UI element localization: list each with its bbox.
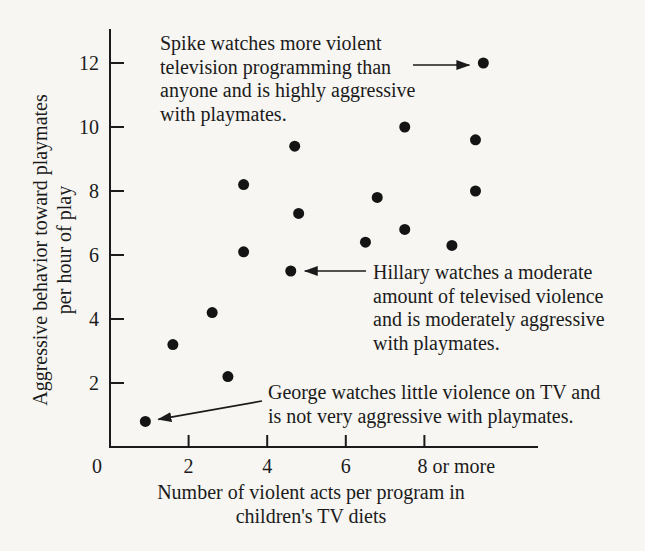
annotation-line: with playmates. [373,332,605,356]
annotation-line: is not very aggressive with playmates. [268,405,600,429]
annotation-line: George watches little violence on TV and [268,381,600,405]
data-point [289,141,300,152]
x-tick-label: 8 or more [417,455,495,477]
data-point [293,208,304,219]
data-point [372,192,383,203]
annotation-line: television programming than [160,56,416,80]
annotation-line: anyone and is highly aggressive [160,79,416,103]
data-point [470,186,481,197]
y-tick-label: 6 [89,244,99,266]
annotation-line: with playmates. [160,103,416,127]
arrow-to-george [158,401,262,419]
data-point [207,307,218,318]
annotation-line: Hillary watches a moderate [373,261,605,285]
y-axis-title-line: per hour of play [52,50,76,450]
x-axis-title: Number of violent acts per program in ch… [101,481,521,528]
data-point-hillary [285,266,296,277]
scatter-plot-figure: 2468101202468 or more Aggressive behavio… [0,0,645,551]
y-axis-title-line: Aggressive behavior toward playmates [28,50,52,450]
annotation-hillary: Hillary watches a moderate amount of tel… [373,261,605,355]
y-axis-title: Aggressive behavior toward playmates per… [28,50,76,450]
annotation-line: amount of televised violence [373,285,605,309]
y-tick-label: 2 [89,372,99,394]
data-point [167,339,178,350]
x-axis-title-line: children's TV diets [101,505,521,529]
annotation-spike: Spike watches more violent television pr… [160,32,416,126]
annotation-line: and is moderately aggressive [373,308,605,332]
data-point [446,240,457,251]
data-point-spike [478,58,489,69]
annotation-george: George watches little violence on TV and… [268,381,600,428]
y-tick-label: 4 [89,308,99,330]
data-point [399,224,410,235]
data-point [222,371,233,382]
annotation-line: Spike watches more violent [160,32,416,56]
data-point [238,179,249,190]
data-point-george [140,416,151,427]
x-tick-label: 6 [341,455,351,477]
x-tick-label: 4 [262,455,272,477]
y-tick-label: 10 [79,116,99,138]
y-tick-label: 8 [89,180,99,202]
data-point [238,246,249,257]
data-point [470,134,481,145]
data-point [360,237,371,248]
x-axis-title-line: Number of violent acts per program in [101,481,521,505]
y-tick-label: 12 [79,52,99,74]
x-tick-label: 2 [184,455,194,477]
x-tick-label: 0 [92,455,102,477]
